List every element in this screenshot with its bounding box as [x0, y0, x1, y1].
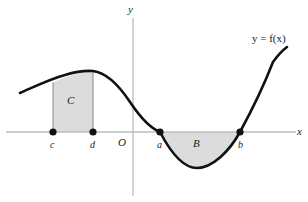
calculus-area-figure: y x O y = f(x) c d a b C B [0, 0, 308, 202]
point-a-dot [156, 128, 163, 135]
point-label-c: c [50, 140, 54, 150]
point-c-dot [49, 128, 56, 135]
y-axis-label: y [128, 4, 133, 15]
x-axis-label: x [297, 126, 302, 137]
origin-label: O [118, 137, 126, 148]
region-label-b: B [193, 138, 200, 149]
point-label-b: b [238, 140, 243, 150]
point-b-dot [236, 128, 243, 135]
figure-canvas [0, 0, 308, 202]
point-label-d: d [90, 140, 95, 150]
point-label-a: a [157, 140, 162, 150]
point-d-dot [89, 128, 96, 135]
curve-label: y = f(x) [252, 33, 286, 44]
region-label-c: C [67, 95, 74, 106]
